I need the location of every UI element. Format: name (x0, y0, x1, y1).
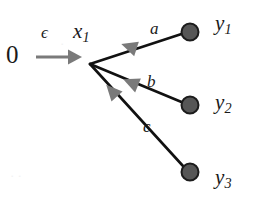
node-y3-base: y (215, 165, 224, 189)
node-y2-base: y (215, 90, 224, 114)
node-y3-label: y3 (215, 167, 231, 188)
epsilon-label: ϵ (41, 24, 48, 41)
state-x1-label: x1 (73, 21, 89, 42)
node-y1-subscript: 1 (225, 21, 232, 37)
node-y1[interactable] (182, 24, 199, 41)
input-arrow-head (68, 50, 82, 65)
node-y2[interactable] (182, 97, 199, 114)
node-y1-base: y (215, 11, 224, 35)
edge-b-arrowhead (120, 72, 141, 92)
edge-b-group[interactable] (90, 64, 182, 102)
node-y2-subscript: 2 (225, 100, 232, 116)
diagram-canvas: 0 ϵ x1 a b c y1 y2 y3 · · · (0, 0, 254, 201)
edge-b-label: b (147, 73, 156, 90)
edge-a-label: a (150, 20, 159, 37)
node-y3[interactable] (182, 164, 199, 181)
node-y3-subscript: 3 (225, 175, 232, 191)
node-y1-label: y1 (215, 13, 231, 34)
node-y2-label: y2 (215, 92, 231, 113)
source-zero-label: 0 (6, 42, 19, 67)
state-x1-base: x (73, 19, 82, 43)
edge-c-arrowhead (101, 80, 123, 102)
edge-c-label: c (143, 118, 151, 135)
input-arrow (36, 50, 82, 65)
edge-a-group[interactable] (90, 34, 182, 64)
state-x1-subscript: 1 (83, 29, 90, 45)
